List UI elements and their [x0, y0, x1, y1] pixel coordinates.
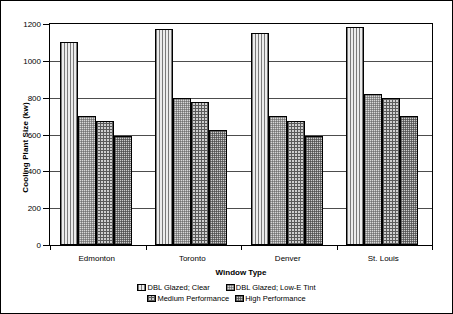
legend-label-3: High Performance — [245, 294, 305, 303]
legend-item-2[interactable]: Medium Performance — [147, 294, 229, 303]
bar[interactable] — [269, 116, 287, 245]
legend-swatch-icon-0 — [137, 284, 146, 291]
legend-label-1: DBL Glazed; Low-E Tint — [236, 283, 316, 292]
legend-label-2: Medium Performance — [157, 294, 229, 303]
y-axis-tick — [43, 171, 50, 172]
chart-figure: Cooling Plant Size (kw) 0200400600800100… — [0, 0, 453, 314]
x-axis-tick — [50, 245, 51, 250]
bar[interactable] — [364, 94, 382, 245]
bar-group — [60, 24, 132, 245]
plot-inner: 020040060080010001200 — [50, 24, 432, 245]
bar-group — [346, 24, 418, 245]
x-axis-category-label: Edmonton — [79, 254, 115, 263]
x-axis-category-label: Toronto — [179, 254, 206, 263]
y-axis-tick — [43, 61, 50, 62]
bar[interactable] — [173, 98, 191, 245]
y-axis-tick — [43, 24, 50, 25]
y-axis-tick-label: 800 — [28, 93, 41, 102]
bar[interactable] — [305, 136, 323, 245]
x-axis-category-label: Denver — [275, 254, 301, 263]
bar[interactable] — [96, 121, 114, 245]
plot-area: 020040060080010001200 — [49, 23, 433, 246]
chart-legend: DBL Glazed; Clear DBL Glazed; Low-E Tint… — [1, 282, 452, 304]
y-axis-tick — [43, 98, 50, 99]
bar[interactable] — [400, 116, 418, 245]
y-axis-tick-label: 600 — [28, 130, 41, 139]
legend-item-0[interactable]: DBL Glazed; Clear — [137, 283, 209, 292]
y-axis-tick — [43, 245, 50, 246]
legend-label-0: DBL Glazed; Clear — [147, 283, 209, 292]
x-axis-tick — [146, 245, 147, 250]
bar-group — [251, 24, 323, 245]
bar[interactable] — [382, 98, 400, 245]
bar[interactable] — [346, 27, 364, 245]
x-axis-tick — [337, 245, 338, 250]
legend-item-1[interactable]: DBL Glazed; Low-E Tint — [226, 283, 316, 292]
x-axis-category-label: St. Louis — [368, 254, 399, 263]
bar[interactable] — [114, 136, 132, 245]
legend-row-2: Medium Performance High Performance — [1, 293, 452, 304]
bar[interactable] — [209, 130, 227, 245]
x-axis-title: Window Type — [49, 268, 433, 277]
x-axis-tick — [241, 245, 242, 250]
bar[interactable] — [78, 116, 96, 245]
y-axis-tick-label: 0 — [37, 241, 41, 250]
legend-swatch-icon-3 — [235, 295, 244, 302]
y-axis-tick-label: 1000 — [23, 56, 41, 65]
y-axis-tick-label: 1200 — [23, 20, 41, 29]
legend-swatch-icon-1 — [226, 284, 235, 291]
legend-swatch-icon-2 — [147, 295, 156, 302]
legend-row-1: DBL Glazed; Clear DBL Glazed; Low-E Tint — [1, 282, 452, 293]
legend-item-3[interactable]: High Performance — [235, 294, 305, 303]
bar[interactable] — [60, 42, 78, 245]
y-axis-tick — [43, 135, 50, 136]
y-axis-tick — [43, 208, 50, 209]
bar[interactable] — [251, 33, 269, 245]
bar[interactable] — [155, 29, 173, 245]
y-axis-tick-label: 400 — [28, 167, 41, 176]
bar-group — [155, 24, 227, 245]
bar[interactable] — [287, 121, 305, 245]
x-axis-tick — [432, 245, 433, 250]
y-axis-tick-label: 200 — [28, 204, 41, 213]
bar[interactable] — [191, 102, 209, 245]
